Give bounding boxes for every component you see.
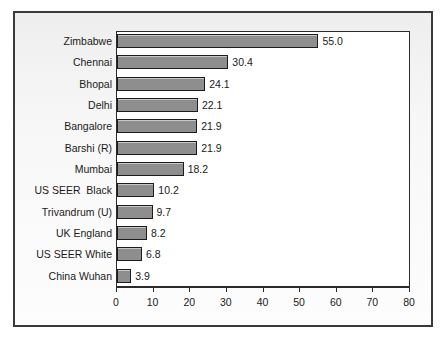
bar-row: Zimbabwe55.0 [0,31,446,51]
x-axis-tick [409,287,410,292]
bar-row: Mumbai18.2 [0,159,446,179]
x-axis-tick-label: 20 [183,296,195,308]
category-label: Barshi (R) [65,138,112,158]
category-label: US SEER Black [34,180,112,200]
bar-row: Bangalore21.9 [0,116,446,136]
bar [117,77,205,91]
bar-rows: Zimbabwe55.0Chennai30.4Bhopal24.1Delhi22… [0,31,446,287]
bar-row: Bhopal24.1 [0,74,446,94]
bar-value-label: 55.0 [318,34,342,48]
bar-row: US SEER Black10.2 [0,180,446,200]
category-label: Delhi [88,95,112,115]
bar-value-label: 8.2 [147,226,166,240]
bar-row: China Wuhan3.9 [0,266,446,286]
x-axis-tick [372,287,373,292]
x-axis-tick [153,287,154,292]
bar [117,183,154,197]
bar-chart: Zimbabwe55.0Chennai30.4Bhopal24.1Delhi22… [0,0,446,343]
category-label: China Wuhan [49,266,112,286]
x-axis-tick-label: 50 [293,296,305,308]
bar [117,98,198,112]
bar-value-label: 30.4 [228,55,252,69]
x-axis-tick-label: 70 [367,296,379,308]
category-label: Zimbabwe [64,31,112,51]
bar [117,119,197,133]
bar [117,34,318,48]
bar-row: Trivandrum (U)9.7 [0,202,446,222]
bar-value-label: 21.9 [197,141,221,155]
bar [117,247,142,261]
x-axis-tick [189,287,190,292]
bar-row: Barshi (R)21.9 [0,138,446,158]
x-axis-tick [226,287,227,292]
x-axis-tick [299,287,300,292]
bar-value-label: 21.9 [197,119,221,133]
bar-value-label: 22.1 [198,98,222,112]
x-axis-tick [116,287,117,292]
bar [117,141,197,155]
x-axis-tick-label: 80 [403,296,415,308]
x-axis-tick-label: 60 [330,296,342,308]
bar-row: US SEER White6.8 [0,244,446,264]
bar [117,269,131,283]
category-label: UK England [56,223,112,243]
bar-value-label: 9.7 [153,205,172,219]
bar-value-label: 18.2 [184,162,208,176]
x-axis-tick-label: 0 [113,296,119,308]
bar-value-label: 6.8 [142,247,161,261]
bar-value-label: 3.9 [131,269,150,283]
category-label: Mumbai [75,159,112,179]
bar-row: Chennai30.4 [0,52,446,72]
category-label: US SEER White [36,244,112,264]
x-axis-tick [263,287,264,292]
bar-value-label: 24.1 [205,77,229,91]
bar [117,226,147,240]
category-label: Bhopal [79,74,112,94]
category-label: Chennai [73,52,112,72]
x-axis: 01020304050607080 [116,287,410,288]
bar [117,55,228,69]
bar-row: Delhi22.1 [0,95,446,115]
bar [117,205,153,219]
x-axis-tick-label: 10 [147,296,159,308]
bar [117,162,184,176]
x-axis-tick-label: 30 [220,296,232,308]
bar-value-label: 10.2 [154,183,178,197]
bar-row: UK England8.2 [0,223,446,243]
category-label: Trivandrum (U) [42,202,112,222]
x-axis-tick [336,287,337,292]
x-axis-tick-label: 40 [257,296,269,308]
category-label: Bangalore [64,116,112,136]
